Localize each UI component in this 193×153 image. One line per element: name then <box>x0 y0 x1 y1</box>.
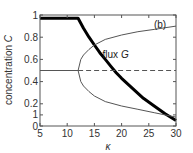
y-tick-label: 0.2 <box>24 98 38 109</box>
y-tick-label: 1 <box>32 10 38 21</box>
x-axis-label: κ <box>106 141 112 152</box>
x-axis-ticks: 51015202530 <box>37 15 182 139</box>
x-tick-label: 15 <box>89 128 101 139</box>
y-tick-label: 0.4 <box>24 76 38 87</box>
y-tick-label: 1 <box>32 109 38 120</box>
x-tick-label: 5 <box>37 128 43 139</box>
y-tick-label: 0 <box>32 121 38 132</box>
x-tick-label: 25 <box>143 128 155 139</box>
annotations: flux G <box>103 49 129 60</box>
y-tick-label: 0.6 <box>24 54 38 65</box>
flux-annotation: flux G <box>103 49 129 60</box>
x-tick-label: 10 <box>62 128 74 139</box>
y-tick-label: 0.8 <box>24 32 38 43</box>
y-axis-label: concentration C <box>3 34 14 105</box>
panel-label: (b) <box>154 19 166 30</box>
x-tick-label: 30 <box>170 128 182 139</box>
series-line <box>40 18 176 120</box>
x-tick-label: 20 <box>116 128 128 139</box>
plot-area <box>40 18 176 120</box>
chart-canvas: 51015202530 010.20.40.60.81 κ concentrat… <box>0 0 193 153</box>
